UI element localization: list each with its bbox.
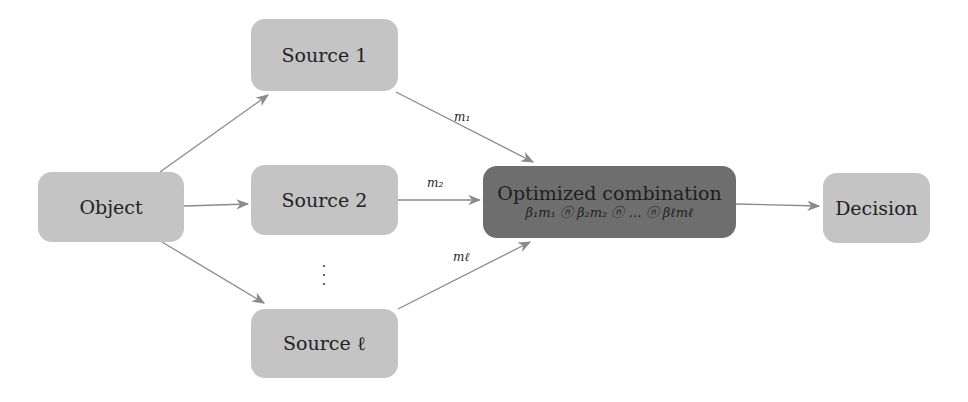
edge-combination-decision <box>736 204 819 206</box>
node-object-label: Object <box>79 196 142 218</box>
edge-object-source1 <box>160 95 268 172</box>
node-decision-label: Decision <box>835 197 918 219</box>
combination-title: Optimized combination <box>497 182 721 204</box>
node-source-2: Source 2 <box>251 165 398 235</box>
node-source-2-label: Source 2 <box>282 189 368 211</box>
node-source-l-label: Source ℓ <box>283 332 366 355</box>
node-decision: Decision <box>823 173 930 243</box>
node-source-1-label: Source 1 <box>282 44 368 66</box>
node-source-1: Source 1 <box>251 19 398 91</box>
edge-source1-combination <box>396 92 533 162</box>
edge-label-m1: m₁ <box>454 110 470 124</box>
edge-label-m2: m₂ <box>427 176 443 190</box>
node-source-l: Source ℓ <box>251 309 398 378</box>
node-object: Object <box>38 172 184 242</box>
edge-label-ml: mℓ <box>453 250 469 265</box>
ellipsis-vertical: ··· <box>314 262 334 289</box>
edge-object-sourceL <box>162 242 264 303</box>
combination-formula: β₁m₁ ⓝ β₂m₂ ⓝ … ⓝ βℓmℓ <box>526 204 694 222</box>
edge-object-source2 <box>184 204 248 206</box>
node-optimized-combination: Optimized combination β₁m₁ ⓝ β₂m₂ ⓝ … ⓝ … <box>483 166 736 238</box>
